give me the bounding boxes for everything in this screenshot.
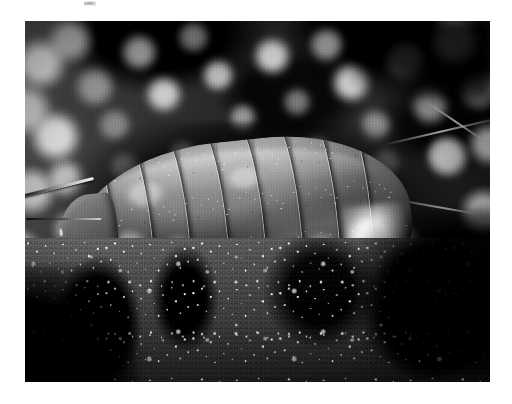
- foreground-shadow-left: [25, 266, 137, 382]
- photograph: [25, 21, 490, 382]
- scan-speck-artifact: [84, 1, 96, 6]
- foreground-shadow-right: [360, 209, 490, 375]
- background-shadow-top-right: [351, 21, 491, 100]
- page-root: [0, 0, 512, 404]
